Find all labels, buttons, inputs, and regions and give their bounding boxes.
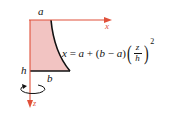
eq-minus: − (108, 47, 114, 59)
profile-equation: x = a + (b − a)(zh)2 (62, 43, 154, 63)
label-h: h (21, 65, 27, 76)
label-a: a (38, 6, 44, 17)
label-b: b (47, 73, 53, 84)
label-x-axis: x (105, 22, 109, 31)
rotation-arrow-icon (21, 84, 45, 94)
eq-plus: + (87, 47, 93, 59)
eq-a: a (79, 47, 85, 59)
eq-lparen: ( (127, 43, 132, 63)
eq-exponent: 2 (150, 37, 154, 46)
eq-close: ) (122, 47, 126, 59)
eq-fraction: zh (134, 43, 142, 63)
label-z-axis: z (33, 100, 36, 108)
eq-denominator: h (135, 54, 140, 63)
eq-numerator: z (136, 43, 140, 52)
eq-equals: = (70, 47, 76, 59)
eq-rparen: ) (144, 43, 149, 63)
eq-lhs: x (62, 47, 67, 59)
eq-b: b (100, 47, 106, 59)
